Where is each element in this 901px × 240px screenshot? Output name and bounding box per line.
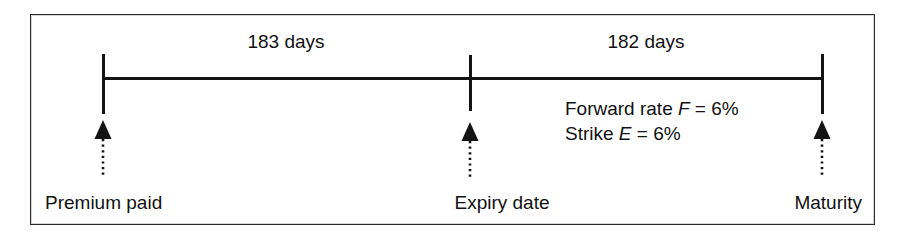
strike-rate-note: Strike E = 6% [565, 121, 739, 146]
span-label-second-period: 182 days [540, 31, 752, 53]
tick-expiry-date [469, 55, 472, 111]
span-label-first-period: 183 days [180, 31, 392, 53]
strike-rate-prefix: Strike [565, 123, 619, 144]
forward-rate-relation: = [690, 98, 712, 119]
tick-maturity [821, 54, 824, 114]
tick-premium-paid [102, 54, 105, 114]
forward-rate-symbol: F [678, 98, 690, 119]
timeline-axis [103, 77, 822, 80]
strike-rate-relation: = [632, 123, 654, 144]
fra-timeline-diagram: 183 days 182 days Forward rate F = 6% St… [0, 0, 901, 240]
milestone-label-maturity: Maturity [700, 192, 862, 214]
strike-rate-symbol: E [619, 123, 632, 144]
callout-arrow-expiry-date [459, 122, 481, 182]
forward-rate-value: 6% [711, 98, 738, 119]
milestone-label-premium-paid: Premium paid [45, 192, 162, 214]
rate-notes: Forward rate F = 6% Strike E = 6% [565, 96, 739, 146]
callout-arrow-maturity [811, 120, 833, 180]
callout-arrow-premium-paid [92, 120, 114, 180]
forward-rate-note: Forward rate F = 6% [565, 96, 739, 121]
milestone-label-expiry-date: Expiry date [402, 192, 602, 214]
strike-rate-value: 6% [653, 123, 680, 144]
forward-rate-prefix: Forward rate [565, 98, 678, 119]
